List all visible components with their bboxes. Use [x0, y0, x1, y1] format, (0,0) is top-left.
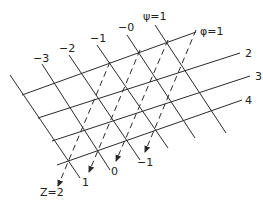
phi-line — [52, 76, 250, 141]
phi-label: 3 — [255, 70, 262, 83]
phi-label: 2 — [245, 47, 252, 60]
phi-label: 4 — [245, 94, 252, 107]
psi-line — [69, 55, 140, 160]
psi-line — [97, 45, 168, 148]
coordinate-grid-figure: φ=1234 −3−2−1−0ψ=1 Z=210−1 — [0, 0, 263, 209]
z-label: −1 — [137, 156, 153, 169]
z-label: 1 — [82, 176, 89, 189]
z-label: Z=2 — [40, 186, 64, 199]
z-lines: Z=210−1 — [40, 30, 196, 199]
psi-label: −0 — [118, 21, 134, 34]
psi-label: −3 — [33, 52, 49, 65]
phi-label: φ=1 — [200, 25, 223, 38]
psi-line — [155, 25, 226, 133]
psi-label: −2 — [59, 42, 75, 55]
phi-lines: φ=1234 — [22, 25, 262, 165]
psi-label: ψ=1 — [143, 10, 166, 23]
z-label: 0 — [111, 165, 118, 178]
grid-svg: φ=1234 −3−2−1−0ψ=1 Z=210−1 — [0, 0, 263, 209]
psi-label: −1 — [90, 32, 106, 45]
psi-line — [42, 64, 110, 170]
psi-line — [10, 75, 80, 178]
